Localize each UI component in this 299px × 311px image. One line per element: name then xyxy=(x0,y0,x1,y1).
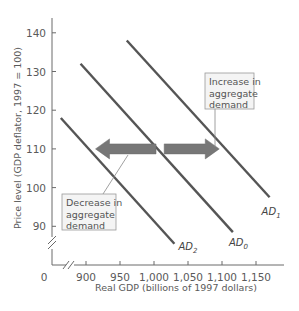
decrease-callout: Decrease inaggregatedemand xyxy=(62,155,128,231)
callout-text: demand xyxy=(209,99,248,110)
curve-label-ad0: AD0 xyxy=(228,237,249,251)
callout-text: demand xyxy=(66,220,105,231)
origin-label: 0 xyxy=(41,271,48,283)
increase-arrow-icon xyxy=(164,139,219,159)
curve-label-ad2: AD2 xyxy=(177,241,198,255)
y-axis-title: Price level (GDP deflator, 1997 = 100) xyxy=(12,47,23,229)
x-tick-label: 900 xyxy=(76,271,96,283)
decrease-arrow-icon xyxy=(96,139,157,159)
curve-ad1 xyxy=(127,41,270,198)
x-axis-break xyxy=(68,261,74,269)
y-tick-label: 90 xyxy=(33,220,46,232)
y-tick-label: 110 xyxy=(26,143,46,155)
callout-text: aggregate xyxy=(209,88,258,99)
curve-label-ad1: AD1 xyxy=(261,206,281,220)
aggregate-demand-chart: 09009501,0001,0501,1001,1509010011012013… xyxy=(0,0,299,311)
y-tick-label: 140 xyxy=(26,27,46,39)
callout-text: Decrease in xyxy=(66,197,122,208)
callout-text: aggregate xyxy=(66,209,115,220)
callout-text: Increase in xyxy=(209,76,261,87)
y-tick-label: 130 xyxy=(26,66,46,78)
x-axis-title: Real GDP (billions of 1997 dollars) xyxy=(95,282,257,293)
y-tick-label: 120 xyxy=(26,104,46,116)
y-tick-label: 100 xyxy=(26,182,46,194)
